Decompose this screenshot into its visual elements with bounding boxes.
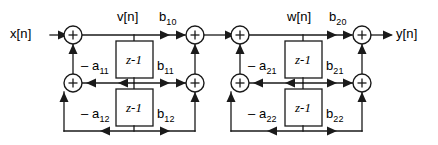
coefficient-label-a22: – a22 — [248, 107, 277, 120]
wire-right-riser-mid-section1 — [191, 44, 200, 74]
coef-b11-sub: 11 — [164, 66, 174, 76]
flow-graph-canvas — [0, 0, 438, 145]
coefficient-label-b21: b21 — [326, 59, 344, 72]
coefficient-label-b22: b22 — [326, 107, 344, 120]
wire-left-riser-bottom-section1 — [60, 92, 69, 131]
delay-label-2-2: z-1 — [295, 101, 311, 114]
coef-a22-sub: 22 — [266, 114, 276, 124]
coefficient-label-a11: – a11 — [81, 59, 109, 72]
coef-a21-text: – a — [248, 58, 266, 73]
coef-a12-text: – a — [81, 106, 99, 121]
adder-sum-3-mid — [231, 74, 249, 92]
wire-left-riser-mid-section1 — [69, 44, 78, 74]
wire-mid-bus-section1 — [82, 79, 195, 88]
wire-bottom-bus-section2 — [231, 127, 362, 136]
wire-right-riser-mid-section2 — [358, 44, 367, 74]
wire-left-riser-bottom-section2 — [227, 92, 236, 131]
delay-label-1-1: z-1 — [126, 53, 142, 66]
input-signal-label: x[n] — [10, 27, 31, 40]
coef-a11-text: – a — [81, 58, 99, 73]
delay-label-1-2: z-1 — [126, 101, 142, 114]
adder-sum-2-mid — [186, 74, 204, 92]
adder-sum-1-top — [64, 26, 82, 44]
wire-right-riser-bottom-section1 — [191, 92, 200, 131]
coef-b20-sub: 20 — [336, 17, 346, 27]
coefficient-label-b20: b20 — [329, 10, 347, 23]
adder-sum-3-top — [231, 26, 249, 44]
coef-b21-sub: 21 — [333, 66, 343, 76]
wire-mid-bus-section2 — [249, 79, 362, 88]
wire-right-riser-bottom-section2 — [358, 92, 367, 131]
signal-flow-diagram: x[n] y[n] v[n] w[n] z-1 z-1 z-1 z-1 – a1… — [0, 0, 438, 145]
coef-b22-sub: 22 — [333, 114, 343, 124]
delay-exp-1-1: -1 — [131, 52, 142, 67]
adder-sum-4-top — [353, 26, 371, 44]
coefficient-label-b12: b12 — [157, 107, 175, 120]
coef-a21-sub: 21 — [266, 66, 276, 76]
coef-a22-text: – a — [248, 106, 266, 121]
wire-bottom-bus-section1 — [64, 127, 195, 136]
delay-exp-2-1: -1 — [300, 52, 311, 67]
coefficient-label-b11: b11 — [157, 59, 174, 72]
coefficient-label-b10: b10 — [159, 10, 177, 23]
coef-b12-sub: 12 — [164, 114, 174, 124]
coefficient-label-a12: – a12 — [81, 107, 110, 120]
coef-a12-sub: 12 — [99, 114, 109, 124]
output-signal-label: y[n] — [396, 27, 417, 40]
delay-exp-2-2: -1 — [300, 100, 311, 115]
wire-output — [371, 31, 393, 40]
wire-top-section2 — [249, 31, 353, 40]
delay-exp-1-2: -1 — [131, 100, 142, 115]
adder-sum-1-mid — [64, 74, 82, 92]
delay-label-2-1: z-1 — [295, 53, 311, 66]
adder-sum-4-mid — [353, 74, 371, 92]
coef-a11-sub: 11 — [99, 66, 109, 76]
coef-b10-sub: 10 — [166, 17, 176, 27]
v-node-label: v[n] — [117, 10, 138, 23]
adder-sum-2-top — [186, 26, 204, 44]
coefficient-label-a21: – a21 — [248, 59, 277, 72]
w-node-label: w[n] — [287, 10, 311, 23]
wire-left-riser-mid-section2 — [236, 44, 245, 74]
